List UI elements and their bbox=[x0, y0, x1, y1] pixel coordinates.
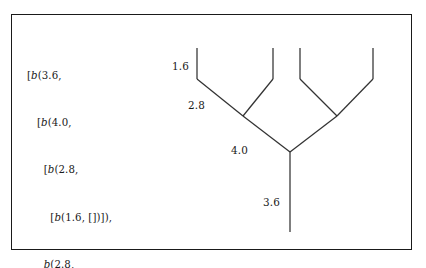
tree-branch-right-2a bbox=[300, 79, 337, 116]
branch-label-3-6: 3.6 bbox=[263, 196, 280, 208]
branch-label-1-6: 1.6 bbox=[172, 60, 189, 72]
branch-label-2-8: 2.8 bbox=[188, 99, 205, 111]
branch-label-4-0: 4.0 bbox=[231, 144, 248, 156]
tree-branch-left-2b bbox=[243, 79, 273, 116]
tree-diagram bbox=[0, 0, 426, 268]
tree-branch-right-2b bbox=[337, 79, 373, 116]
figure-canvas: [b(3.6, [b(4.0, [b(2.8, [b(1.6, [])]), b… bbox=[0, 0, 426, 268]
tree-branch-left-1 bbox=[243, 116, 290, 152]
tree-branch-right-1 bbox=[290, 116, 337, 152]
